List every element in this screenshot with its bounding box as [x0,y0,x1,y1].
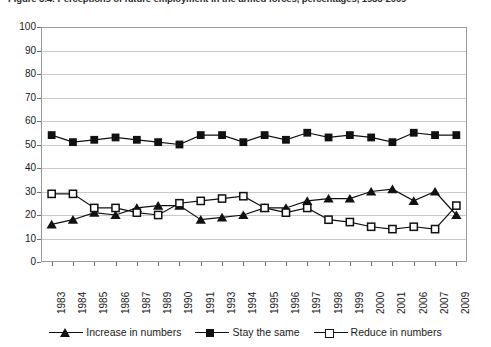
legend-item-label: Reduce in numbers [351,327,442,338]
x-axis-tick-label: 1986 [121,268,131,314]
y-axis-tick-mark [37,51,41,52]
x-axis-tick-label: 1998 [334,268,344,314]
x-axis-tick-mark [307,262,308,266]
x-axis-tick-label: 1997 [312,268,322,314]
gridline [42,51,466,52]
y-axis-tick-label: 30 [6,187,36,197]
x-axis-tick-label: 1996 [291,268,301,314]
y-axis-tick-mark [37,215,41,216]
y-axis-tick-mark [37,239,41,240]
x-axis-tick-mark [52,262,53,266]
gridline [42,192,466,193]
legend-item-label: Increase in numbers [86,327,181,338]
filled-square-icon [206,329,214,337]
plot-area [41,27,467,262]
y-axis-tick-label: 80 [6,69,36,79]
x-axis-tick-mark [201,262,202,266]
x-axis-tick-label: 2000 [376,268,386,314]
x-axis-tick-label: 1999 [355,268,365,314]
x-axis-tick-label: 1991 [206,268,216,314]
legend-item-label: Stay the same [232,327,299,338]
gridline [42,215,466,216]
y-axis-tick-mark [37,262,41,263]
x-axis-tick-mark [137,262,138,266]
y-axis-tick-mark [37,192,41,193]
x-axis-tick-mark [73,262,74,266]
x-axis-tick-mark [286,262,287,266]
legend-item[interactable]: Increase in numbers [49,327,181,338]
legend-item[interactable]: Stay the same [195,327,299,338]
y-axis-tick-label: 10 [6,234,36,244]
line-chart: 0102030405060708090100 19831984198519861… [0,0,491,347]
legend-item[interactable]: Reduce in numbers [314,327,442,338]
x-axis-tick-mark [392,262,393,266]
y-axis-tick-label: 50 [6,140,36,150]
x-axis-tick-label: 2006 [419,268,429,314]
legend-swatch-filled-square-icon [195,327,229,338]
y-axis-tick-label: 70 [6,93,36,103]
x-axis-tick-label: 1995 [270,268,280,314]
y-axis-tick-label: 40 [6,163,36,173]
y-axis-tick-mark [37,27,41,28]
y-axis-tick-mark [37,145,41,146]
x-axis-tick-mark [329,262,330,266]
x-axis-tick-label: 1994 [248,268,258,314]
x-axis-tick-mark [222,262,223,266]
x-axis-tick-label: 2007 [440,268,450,314]
x-axis-tick-label: 1984 [78,268,88,314]
x-axis-tick-label: 1989 [163,268,173,314]
y-axis-tick-mark [37,74,41,75]
x-axis-tick-mark [179,262,180,266]
gridline [42,74,466,75]
y-axis-tick-label: 60 [6,116,36,126]
x-axis-tick-mark [350,262,351,266]
x-axis-tick-mark [456,262,457,266]
y-axis-tick-mark [37,168,41,169]
x-axis-tick-label: 1987 [142,268,152,314]
x-axis-tick-mark [116,262,117,266]
y-axis-tick-mark [37,121,41,122]
y-axis-tick-label: 0 [6,257,36,267]
y-axis-tick-label: 90 [6,46,36,56]
x-axis-tick-mark [435,262,436,266]
x-axis-tick-mark [243,262,244,266]
x-axis-tick-label: 2001 [397,268,407,314]
gridline [42,168,466,169]
chart-legend: Increase in numbersStay the sameReduce i… [0,322,491,342]
y-axis-tick-label: 100 [6,22,36,32]
x-axis-tick-mark [371,262,372,266]
x-axis-tick-label: 1990 [184,268,194,314]
legend-swatch-filled-triangle-icon [49,327,83,338]
x-axis-tick-label: 1985 [99,268,109,314]
x-axis-tick-mark [414,262,415,266]
y-axis-tick-mark [37,98,41,99]
x-axis-tick-label: 2009 [461,268,471,314]
x-axis-tick-mark [94,262,95,266]
gridline [42,121,466,122]
x-axis-tick-label: 1993 [227,268,237,314]
filled-triangle-icon [60,328,70,337]
x-axis-tick-mark [158,262,159,266]
x-axis-tick-label: 1983 [57,268,67,314]
gridline [42,98,466,99]
gridline [42,239,466,240]
gridline [42,145,466,146]
x-axis-tick-mark [265,262,266,266]
open-square-icon [325,329,334,338]
y-axis-tick-label: 20 [6,210,36,220]
legend-swatch-open-square-icon [314,327,348,338]
